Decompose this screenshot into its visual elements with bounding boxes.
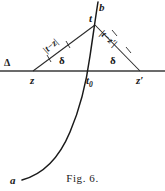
figure-container: Δ z z′ t t0 b a δ δ |t−z| |t−z′| Fig. 6. — [0, 0, 165, 191]
point-label-z-prime: z′ — [136, 75, 143, 86]
angle-label-delta-right: δ — [110, 55, 116, 66]
axis-label-delta: Δ — [4, 58, 10, 68]
point-label-t0: t0 — [86, 75, 93, 86]
curve-a-to-b — [22, 2, 98, 180]
point-label-t: t — [89, 13, 92, 24]
point-label-t0-subscript: 0 — [89, 80, 93, 89]
point-label-z: z — [30, 75, 34, 86]
figure-drawing — [0, 0, 165, 191]
angle-label-delta-left: δ — [59, 55, 65, 66]
figure-caption: Fig. 6. — [0, 172, 165, 184]
bracket-tick-right-lower — [126, 47, 131, 53]
point-label-b: b — [99, 2, 105, 13]
